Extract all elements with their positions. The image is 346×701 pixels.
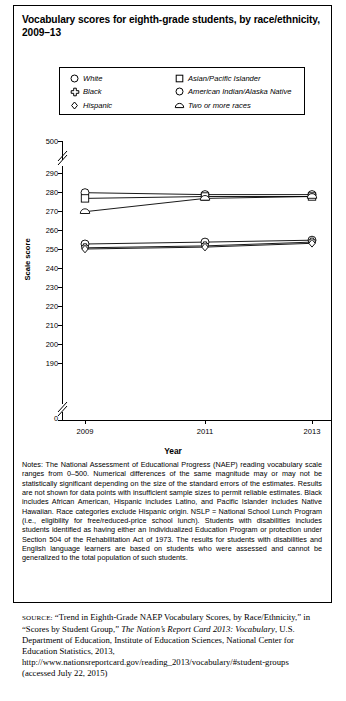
chart-svg (0, 0, 346, 460)
series-line-two-or-more-races (85, 197, 312, 212)
source-italic-title: The Nation’s Report Card 2013: Vocabular… (121, 624, 275, 634)
source-text: SOURCE: “Trend in Eighth-Grade NAEP Voca… (22, 612, 324, 680)
y-tick-marks (58, 141, 62, 420)
x-tick-marks (85, 420, 312, 424)
figure-page: Vocabulary scores for eighth-grade stude… (0, 0, 346, 701)
chart-plot-area: Scale score 500 290 280 270 260 250 240 … (0, 0, 346, 460)
series-line-white (85, 193, 312, 195)
notes-text: Notes: The National Assessment of Educat… (22, 460, 322, 563)
source-label: SOURCE: (22, 614, 53, 622)
